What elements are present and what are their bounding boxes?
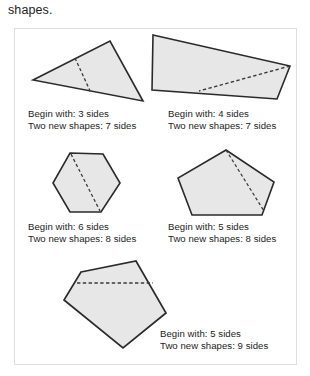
begin-with-label: Begin with: 3 sides: [28, 108, 136, 120]
two-new-shapes-label: Two new shapes: 9 sides: [160, 340, 268, 352]
caption-top-text: shapes.: [8, 2, 52, 18]
two-new-shapes-label: Two new shapes: 8 sides: [28, 233, 136, 245]
two-new-shapes-label: Two new shapes: 8 sides: [168, 233, 276, 245]
begin-with-label: Begin with: 5 sides: [168, 221, 276, 233]
begin-with-label: Begin with: 4 sides: [168, 108, 276, 120]
begin-with-label: Begin with: 5 sides: [160, 328, 268, 340]
two-new-shapes-label: Two new shapes: 7 sides: [28, 120, 136, 132]
two-new-shapes-label: Two new shapes: 7 sides: [168, 120, 276, 132]
shape-label-pentagon-5-sides-a: Begin with: 5 sides Two new shapes: 8 si…: [168, 221, 276, 245]
shape-label-triangle-3-sides: Begin with: 3 sides Two new shapes: 7 si…: [28, 108, 136, 132]
shape-label-hexagon-6-sides: Begin with: 6 sides Two new shapes: 8 si…: [28, 221, 136, 245]
page-root: shapes. Begin with: 3 sides Two new shap…: [0, 0, 310, 376]
figure-panel: [14, 28, 297, 365]
shape-label-quadrilateral-4-sides: Begin with: 4 sides Two new shapes: 7 si…: [168, 108, 276, 132]
shape-label-pentagon-5-sides-b: Begin with: 5 sides Two new shapes: 9 si…: [160, 328, 268, 352]
begin-with-label: Begin with: 6 sides: [28, 221, 136, 233]
